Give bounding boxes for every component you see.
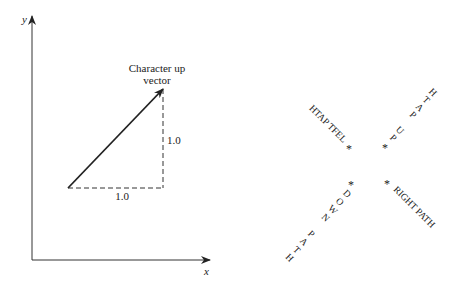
vector-label-line2: vector <box>143 74 171 86</box>
down-path-char: N <box>320 212 332 224</box>
left-path-marker: * <box>346 142 352 156</box>
up-path-text: PUPATH <box>388 86 439 143</box>
diagram-canvas: y x Character up vector 1.0 1.0 * * * * … <box>0 0 469 290</box>
up-path-marker: * <box>382 141 388 155</box>
x-axis-label: x <box>203 265 209 277</box>
vector-label-line1: Character up <box>129 62 186 74</box>
left-path-text: HTAP TFEL <box>307 103 349 145</box>
dy-label: 1.0 <box>167 134 181 146</box>
y-axis-label: y <box>21 13 27 25</box>
down-path-text: DOWNPATH <box>284 188 354 264</box>
dx-label: 1.0 <box>115 190 129 202</box>
down-path-char: H <box>284 252 296 264</box>
character-up-vector-arrow <box>68 89 163 188</box>
right-path-marker: * <box>384 177 390 191</box>
coordinate-figure: y x Character up vector 1.0 1.0 <box>21 13 210 277</box>
text-path-figure: * * * * HTAP TFEL RIGHT PATH PUPATH DOWN… <box>284 86 439 264</box>
right-path-text: RIGHT PATH <box>392 184 437 229</box>
